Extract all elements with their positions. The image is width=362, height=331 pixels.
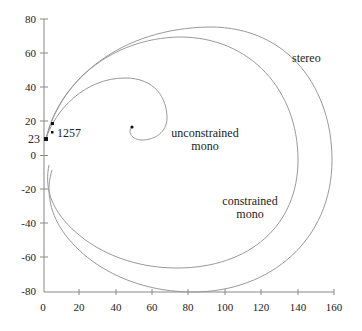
svg-text:100: 100 — [217, 301, 234, 313]
svg-text:120: 120 — [253, 301, 270, 313]
y-tick-labels: 80 60 40 20 0 -20 -40 -60 -80 — [21, 13, 36, 297]
svg-text:160: 160 — [326, 301, 343, 313]
constrained-mono-curve — [46, 37, 298, 268]
label-constrained-mono: mono — [236, 207, 263, 221]
svg-text:-60: -60 — [21, 251, 36, 263]
annotations: 23 1257 stereo unconstrained mono constr… — [28, 51, 321, 221]
svg-text:0: 0 — [31, 149, 37, 161]
svg-text:80: 80 — [25, 13, 37, 25]
svg-text:-40: -40 — [21, 217, 36, 229]
svg-text:20: 20 — [74, 301, 86, 313]
svg-text:40: 40 — [25, 81, 37, 93]
stereo-curve — [46, 27, 332, 292]
label-23: 23 — [28, 132, 40, 146]
label-constrained: constrained — [222, 194, 277, 208]
point-1257-marker — [51, 131, 54, 134]
svg-text:60: 60 — [147, 301, 159, 313]
svg-text:-20: -20 — [21, 183, 36, 195]
svg-text:60: 60 — [25, 47, 37, 59]
curves — [46, 27, 332, 292]
svg-text:0: 0 — [40, 301, 46, 313]
axes — [40, 19, 334, 295]
svg-text:40: 40 — [111, 301, 123, 313]
svg-text:140: 140 — [290, 301, 307, 313]
label-1257: 1257 — [57, 126, 81, 140]
label-unconstrained-mono: mono — [191, 139, 218, 153]
label-unconstrained: unconstrained — [171, 126, 238, 140]
x-tick-labels: 0 20 40 60 80 100 120 140 160 — [40, 301, 343, 313]
spiral-end-marker — [130, 125, 133, 128]
svg-text:80: 80 — [183, 301, 195, 313]
svg-text:-80: -80 — [21, 285, 36, 297]
point-23-marker — [44, 137, 48, 141]
point-marker — [51, 122, 54, 125]
svg-text:20: 20 — [25, 115, 37, 127]
chart-canvas: 80 60 40 20 0 -20 -40 -60 -80 0 20 40 60… — [0, 0, 362, 331]
label-stereo: stereo — [292, 51, 321, 65]
